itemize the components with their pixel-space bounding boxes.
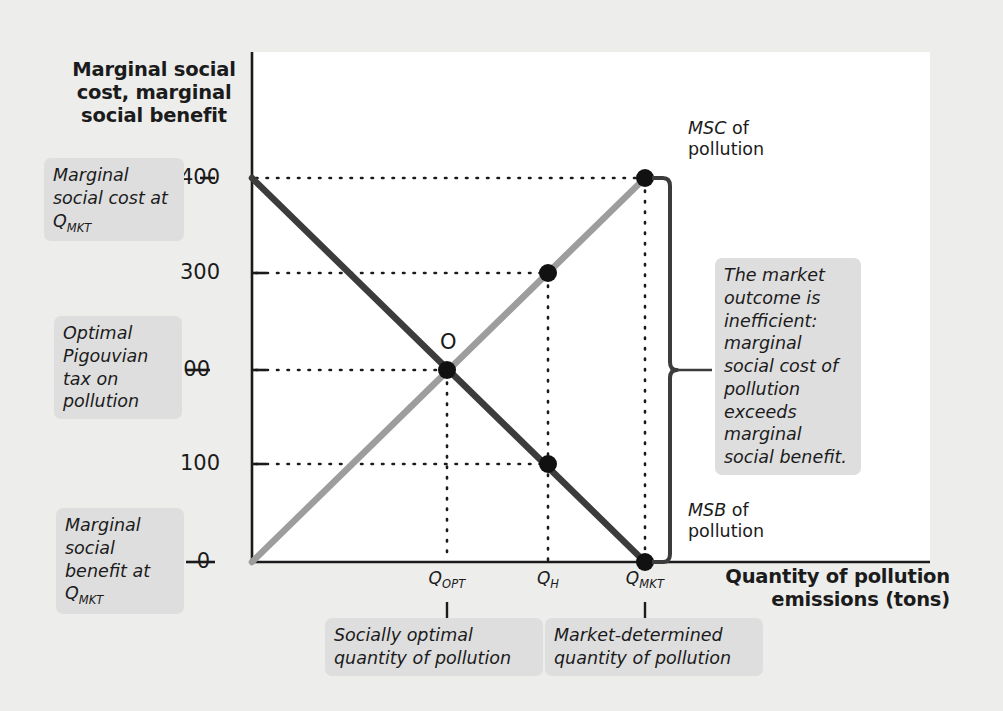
- x-tick-qopt-sub: OPT: [442, 577, 466, 591]
- msb-curve-label-line2: pollution: [688, 521, 764, 541]
- callout-market-determined: Market-determined quantity of pollution: [545, 618, 763, 676]
- x-tick-qh-sub: H: [550, 577, 559, 591]
- x-tick-qmkt: QMKT: [600, 568, 690, 591]
- msb-curve-label: MSB of pollution: [688, 500, 808, 543]
- figure-canvas: Marginal social cost, marginal social be…: [0, 0, 1003, 711]
- msc-curve-label-rest: of: [726, 118, 748, 138]
- x-tick-qmkt-sub: MKT: [639, 577, 664, 591]
- callout-msc-at-qmkt-sub: MKT: [67, 220, 92, 234]
- x-tick-qopt-base: Q: [428, 568, 441, 588]
- msc-curve-label-line2: pollution: [688, 139, 764, 159]
- callout-pigouvian-tax: Optimal Pigouvian tax on pollution: [54, 316, 182, 419]
- callout-msb-at-qmkt-sub: MKT: [79, 593, 104, 607]
- y-tick-300: 300: [120, 260, 220, 284]
- msc-curve-label-abbr: MSC: [688, 118, 726, 138]
- y-axis-title: Marginal social cost, marginal social be…: [60, 58, 248, 127]
- y-tick-100: 100: [120, 451, 220, 475]
- msb-curve-label-rest: of: [726, 500, 748, 520]
- x-tick-qh: QH: [503, 568, 593, 591]
- x-tick-qh-base: Q: [537, 568, 550, 588]
- msc-curve-label: MSC of pollution: [688, 118, 808, 161]
- callout-msc-at-qmkt: Marginal social cost at QMKT: [44, 158, 184, 241]
- callout-msb-at-qmkt: Marginal social benefit at QMKT: [56, 508, 184, 614]
- callout-msb-at-qmkt-text: Marginal social benefit at Q: [65, 515, 150, 603]
- msb-curve-label-abbr: MSB: [688, 500, 726, 520]
- x-tick-qopt: QOPT: [402, 568, 492, 591]
- optimum-point-label: O: [440, 330, 457, 354]
- callout-market-inefficient: The market outcome is inefficient: margi…: [715, 258, 861, 475]
- x-axis-title: Quantity of pollution emissions (tons): [700, 565, 950, 611]
- x-tick-qmkt-base: Q: [626, 568, 639, 588]
- callout-socially-optimal: Socially optimal quantity of pollution: [325, 618, 543, 676]
